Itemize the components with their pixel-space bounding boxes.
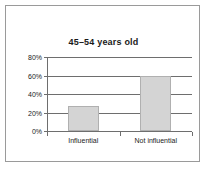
plot-area: 0%20%40%60%80% InfluentialNot influentia… [47,57,192,131]
x-axis-tick [192,132,193,136]
x-axis-label: Influential [68,137,98,144]
bar [140,76,171,132]
y-axis-tick [44,113,47,114]
x-axis-tick [120,132,121,136]
y-axis-label: 40% [28,91,42,98]
chart-figure: 45–54 years old 0%20%40%60%80% Influenti… [0,0,207,169]
chart-title: 45–54 years old [0,37,207,47]
gridline [47,57,192,58]
y-axis-label: 60% [28,72,42,79]
y-axis-tick [44,76,47,77]
y-axis-label: 0% [32,128,42,135]
y-axis-tick [44,94,47,95]
x-axis-tick [47,132,48,136]
y-axis-label: 80% [28,54,42,61]
bar [68,106,99,131]
y-axis-tick [44,57,47,58]
y-axis-label: 20% [28,109,42,116]
x-axis-label: Not influential [135,137,177,144]
